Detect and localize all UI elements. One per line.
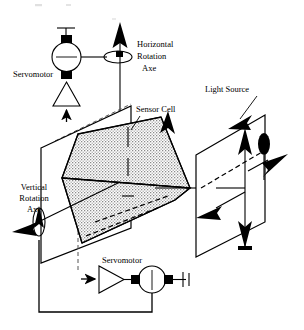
target-plane-group: [196, 115, 288, 257]
light-source-pointer-arrow: [228, 115, 252, 130]
svg-text:Horizontal: Horizontal: [137, 39, 174, 49]
top-amplifier: [53, 82, 80, 106]
horizontal-axis-hub: [116, 51, 123, 57]
svg-text:Axe: Axe: [142, 63, 156, 73]
horizontal-rotation-axe-label: Horizontal Rotation Axe: [137, 39, 174, 73]
svg-text:Axe: Axe: [27, 204, 41, 214]
diagram-canvas: Servomotor Horizontal Rotation Axe: [0, 0, 304, 330]
bottom-servomotor-assembly: [81, 266, 189, 293]
light-source-callout: Light Source: [205, 84, 257, 130]
svg-text:Rotation: Rotation: [19, 193, 49, 203]
servomotor-bottom-label: Servomotor: [102, 255, 142, 265]
sensor-cell-label: Sensor Cell: [136, 104, 176, 114]
top-servomotor-assembly: [52, 28, 107, 122]
target-plane-right-arrow: [262, 154, 288, 177]
target-plane-base-stub: [238, 246, 252, 250]
light-source-target-plane: [196, 115, 265, 257]
svg-text:Vertical: Vertical: [21, 182, 48, 192]
scan-artifacts: [35, 4, 116, 20]
servomotor-top-label: Servomotor: [13, 69, 53, 79]
light-source-emitter-blob: [258, 133, 270, 155]
top-motor-lower-terminal: [61, 71, 72, 79]
top-motor-upper-terminal: [61, 35, 72, 43]
bottom-amplifier: [99, 266, 124, 293]
bottom-motor-right-terminal: [164, 275, 173, 284]
svg-text:Rotation: Rotation: [137, 51, 167, 61]
sensor-gimbal-diagram: Servomotor Horizontal Rotation Axe: [0, 0, 304, 330]
light-source-label: Light Source: [205, 84, 249, 94]
light-source-leader-line: [240, 96, 257, 119]
